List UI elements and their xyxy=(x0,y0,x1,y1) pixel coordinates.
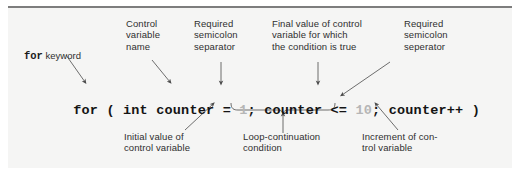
code-token-initial-value: 1 xyxy=(239,103,247,118)
code-token-open-paren: ( xyxy=(98,103,123,118)
label-for-keyword: for keyword xyxy=(24,45,81,63)
label-control-variable-name: Control variable name xyxy=(126,18,186,52)
code-token-condition: ; counter <= xyxy=(248,103,356,118)
for-keyword-suffix: keyword xyxy=(43,50,81,61)
code-token-for: for xyxy=(73,103,98,118)
code-token-increment: ; counter++ ) xyxy=(372,103,480,118)
for-keyword-token: for xyxy=(24,50,43,62)
for-loop-anatomy-figure: Control variable name Required semicolon… xyxy=(0,0,520,187)
label-increment-of-control-variable: Increment of con- trol variable xyxy=(362,131,466,154)
label-loop-continuation-condition: Loop-continuation condition xyxy=(243,131,347,154)
label-required-semicolon-separator: Required semicolon separator xyxy=(194,18,264,52)
code-token-final-value: 10 xyxy=(355,103,372,118)
leader-control-variable-name xyxy=(152,60,170,82)
label-initial-value-of-control-variable: Initial value of control variable xyxy=(124,131,220,154)
code-token-init: int counter = xyxy=(123,103,239,118)
label-required-semicolon-seperator: Required semicolon seperator xyxy=(404,18,484,52)
code-line: for ( int counter = 1; counter <= 10; co… xyxy=(0,88,520,133)
label-final-value-of-control-variable: Final value of control variable for whic… xyxy=(272,18,396,52)
